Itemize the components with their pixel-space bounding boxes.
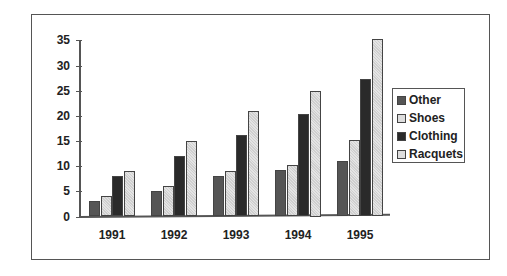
legend-label: Shoes (409, 111, 445, 125)
x-tick-label: 1995 (340, 228, 380, 242)
legend: Other Shoes Clothing Racquets (392, 88, 465, 163)
y-tick-label: 25 (46, 85, 70, 97)
bar-racquets-1992 (186, 141, 197, 216)
legend-item-racquets: Racquets (397, 145, 463, 163)
legend-item-shoes: Shoes (397, 109, 445, 127)
bar-shoes-1991 (101, 196, 112, 216)
bar-shoes-1994 (287, 165, 298, 217)
swatch-icon (397, 96, 406, 105)
x-tick-label: 1991 (92, 228, 132, 242)
x-tick-label: 1992 (154, 228, 194, 242)
legend-label: Other (409, 93, 441, 107)
y-tick-label: 15 (46, 135, 70, 147)
legend-item-clothing: Clothing (397, 127, 458, 145)
swatch-icon (397, 150, 406, 159)
y-tick-label: 10 (46, 160, 70, 172)
bar-shoes-1993 (225, 171, 236, 216)
swatch-icon (397, 132, 406, 141)
y-tick (76, 116, 82, 117)
bar-other-1992 (151, 191, 162, 216)
bar-racquets-1994 (310, 91, 321, 217)
legend-item-other: Other (397, 91, 441, 109)
x-tick-label: 1994 (278, 228, 318, 242)
y-tick (76, 191, 82, 192)
y-tick-label: 20 (46, 110, 70, 122)
swatch-icon (397, 114, 406, 123)
x-tick-label: 1993 (216, 228, 256, 242)
y-tick (76, 166, 82, 167)
legend-label: Clothing (409, 129, 458, 143)
bar-clothing-1993 (236, 135, 247, 217)
bar-shoes-1995 (349, 140, 360, 217)
y-tick-label: 0 (46, 211, 70, 223)
bar-racquets-1993 (248, 111, 259, 217)
bar-clothing-1991 (112, 176, 123, 216)
bar-other-1995 (337, 161, 348, 216)
bar-racquets-1991 (124, 171, 135, 216)
bar-clothing-1994 (298, 114, 309, 216)
bar-clothing-1995 (360, 79, 371, 216)
y-tick-label: 35 (46, 34, 70, 46)
y-tick-label: 5 (46, 185, 70, 197)
bar-racquets-1995 (372, 39, 383, 217)
y-tick-label: 30 (46, 60, 70, 72)
y-tick (76, 141, 82, 142)
y-tick (76, 91, 82, 92)
bar-shoes-1992 (163, 186, 174, 216)
y-tick (76, 66, 82, 67)
bar-other-1993 (213, 176, 224, 216)
bar-clothing-1992 (174, 156, 185, 216)
y-tick (76, 40, 82, 41)
y-tick (76, 217, 82, 218)
bar-other-1991 (89, 201, 100, 216)
legend-label: Racquets (409, 147, 463, 161)
bar-other-1994 (275, 170, 286, 217)
